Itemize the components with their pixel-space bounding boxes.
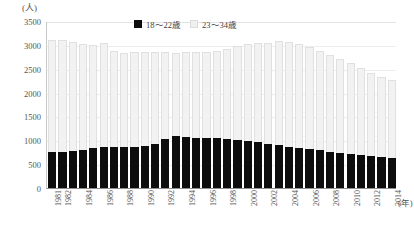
- bar-column: [161, 52, 169, 188]
- x-axis-tick-label: 1994: [188, 190, 197, 206]
- x-axis-tick-labels: 1981198219841986198819901992199419961998…: [46, 190, 396, 234]
- bar-segment-23-34: [275, 41, 283, 145]
- bar-segment-18-22: [264, 144, 272, 188]
- bar-segment-23-34: [295, 44, 303, 148]
- bar-segment-23-34: [347, 63, 355, 154]
- bar-segment-18-22: [326, 152, 334, 188]
- bar-column: [316, 51, 324, 188]
- y-axis-tick-label: 500: [28, 160, 41, 170]
- bar-segment-18-22: [285, 147, 293, 189]
- bar-column: [275, 41, 283, 188]
- bar-segment-18-22: [120, 147, 128, 188]
- bar-segment-18-22: [48, 152, 56, 188]
- x-axis-tick-label: 1992: [167, 190, 176, 206]
- bar-column: [388, 80, 396, 188]
- bar-column: [295, 44, 303, 188]
- bar-column: [264, 43, 272, 189]
- bar-segment-18-22: [151, 144, 159, 188]
- x-axis-tick-label: 2000: [250, 190, 259, 206]
- bar-segment-18-22: [202, 138, 210, 188]
- bar-segment-23-34: [100, 43, 108, 146]
- x-axis-tick-label: 1990: [147, 190, 156, 206]
- bar-segment-23-34: [192, 52, 200, 138]
- bar-segment-18-22: [295, 148, 303, 188]
- bar-segment-23-34: [130, 52, 138, 147]
- y-axis-unit-label: (人): [22, 1, 37, 14]
- bar-segment-18-22: [172, 136, 180, 188]
- bar-segment-18-22: [141, 146, 149, 188]
- bar-segment-23-34: [89, 45, 97, 149]
- bar-segment-23-34: [326, 55, 334, 151]
- bar-segment-18-22: [192, 138, 200, 188]
- bar-segment-18-22: [233, 140, 241, 188]
- y-axis-tick-label: 2500: [24, 65, 41, 75]
- bar-segment-23-34: [264, 43, 272, 144]
- bar-segment-23-34: [213, 51, 221, 139]
- bar-segment-18-22: [69, 151, 77, 188]
- y-axis-tick-label: 0: [37, 184, 41, 194]
- bar-segment-23-34: [367, 73, 375, 156]
- bar-column: [58, 40, 66, 188]
- bar-segment-18-22: [357, 155, 365, 188]
- bar-segment-23-34: [151, 52, 159, 144]
- bar-segment-18-22: [161, 139, 169, 188]
- bar-column: [100, 43, 108, 188]
- bar-column: [182, 52, 190, 188]
- bar-segment-23-34: [172, 53, 180, 137]
- x-axis-tick-label: 1988: [126, 190, 135, 206]
- bar-column: [233, 46, 241, 188]
- bar-segment-18-22: [336, 153, 344, 188]
- bar-segment-23-34: [202, 52, 210, 139]
- bar-column: [79, 44, 87, 188]
- legend-item-18-22: 18～22歳: [134, 18, 181, 30]
- bar-column: [305, 47, 313, 188]
- bar-column: [254, 43, 262, 188]
- bar-column: [151, 52, 159, 188]
- bar-column: [48, 40, 56, 188]
- bar-segment-18-22: [223, 139, 231, 188]
- dark-swatch-icon: [134, 20, 142, 28]
- x-axis-tick-label: 1984: [85, 190, 94, 206]
- y-axis-tick-label: 1000: [24, 136, 41, 146]
- bar-segment-18-22: [89, 148, 97, 188]
- x-axis-tick-label: 1998: [229, 190, 238, 206]
- bar-segment-23-34: [244, 44, 252, 140]
- bar-segment-23-34: [357, 68, 365, 155]
- x-axis-tick-label: 1982: [64, 190, 73, 206]
- y-axis-tick-label: 3000: [24, 41, 41, 51]
- bar-column: [110, 51, 118, 188]
- bar-segment-18-22: [182, 137, 190, 188]
- bar-column: [130, 52, 138, 188]
- bar-segment-18-22: [377, 157, 385, 188]
- bar-column: [120, 53, 128, 188]
- y-axis-tick-label: 1500: [24, 112, 41, 122]
- bar-segment-23-34: [58, 40, 66, 152]
- bar-segment-23-34: [69, 42, 77, 151]
- x-axis-tick-label: 2004: [291, 190, 300, 206]
- bar-segment-18-22: [388, 158, 396, 188]
- legend-item-23-34: 23～34歳: [190, 18, 237, 30]
- legend-label-23-34: 23～34歳: [202, 18, 237, 30]
- y-axis-tick-label: 2000: [24, 89, 41, 99]
- bar-segment-23-34: [336, 59, 344, 153]
- bar-segment-23-34: [48, 40, 56, 152]
- x-axis-tick-label: 1996: [209, 190, 218, 206]
- bar-segment-23-34: [182, 52, 190, 137]
- x-axis-tick-label: 2006: [312, 190, 321, 206]
- bar-segment-23-34: [161, 52, 169, 139]
- bar-column: [223, 49, 231, 188]
- bar-column: [326, 55, 334, 188]
- bar-column: [347, 63, 355, 188]
- bar-segment-23-34: [285, 42, 293, 146]
- bar-segment-23-34: [316, 51, 324, 151]
- bar-column: [141, 52, 149, 188]
- bar-segment-18-22: [254, 142, 262, 188]
- bar-segment-18-22: [347, 154, 355, 188]
- bar-segment-23-34: [377, 77, 385, 157]
- bar-segment-23-34: [120, 53, 128, 148]
- x-axis-tick-label: 2010: [353, 190, 362, 206]
- bar-segment-18-22: [130, 147, 138, 188]
- bar-segment-18-22: [79, 150, 87, 188]
- stacked-bar-chart: (人) 0500100015002000250030003500 1981198…: [0, 0, 414, 236]
- x-axis-tick-label: 2012: [373, 190, 382, 206]
